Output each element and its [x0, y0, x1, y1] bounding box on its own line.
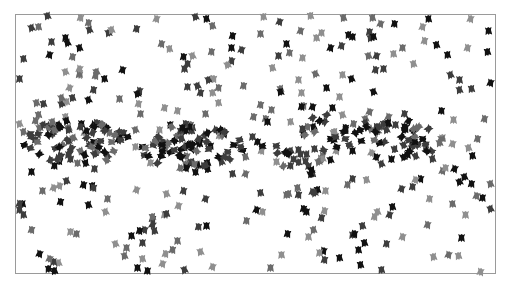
boid-icon: [298, 89, 305, 97]
boid-icon: [123, 133, 132, 142]
boid-icon: [107, 138, 115, 145]
boid-icon: [63, 38, 72, 48]
boid-icon: [202, 110, 209, 118]
boid-icon: [178, 123, 186, 131]
boid-icon: [161, 249, 169, 258]
boid-icon: [229, 170, 237, 179]
boid-icon: [28, 168, 35, 176]
boid-icon: [421, 36, 430, 45]
boid-icon: [389, 203, 397, 212]
boid-icon: [429, 253, 438, 262]
boid-icon: [131, 125, 140, 135]
boid-icon: [388, 154, 395, 162]
boid-icon: [259, 142, 268, 150]
boid-icon: [444, 250, 453, 260]
boid-icon: [444, 51, 452, 60]
boid-icon: [183, 82, 191, 91]
boid-icon: [90, 184, 98, 193]
boid-icon: [191, 12, 200, 22]
boid-icon: [446, 70, 455, 80]
boid-icon: [397, 185, 406, 195]
boid-icon: [208, 263, 217, 273]
boid-icon: [485, 204, 494, 214]
boid-icon: [69, 133, 78, 143]
boid-icon: [132, 24, 140, 33]
boid-icon: [241, 169, 250, 179]
boid-icon: [91, 165, 98, 173]
boid-icon: [347, 74, 356, 84]
boid-icon: [55, 181, 64, 191]
boid-icon: [116, 95, 123, 103]
boid-icon: [204, 145, 212, 152]
boid-icon: [357, 137, 366, 145]
boid-icon: [167, 121, 177, 131]
boid-icon: [80, 149, 90, 159]
boid-icon: [257, 100, 265, 109]
boid-icon: [450, 164, 459, 174]
boid-icon: [134, 99, 142, 108]
boid-icon: [34, 111, 42, 120]
boid-icon: [34, 149, 45, 159]
boid-icon: [215, 84, 223, 93]
boid-icon: [203, 222, 210, 230]
boid-icon: [423, 221, 432, 230]
boid-icon: [85, 200, 94, 209]
boid-icon: [174, 106, 182, 115]
boid-icon: [380, 65, 387, 73]
boid-icon: [418, 136, 426, 143]
boid-icon: [180, 266, 189, 276]
boid-icon: [326, 155, 335, 165]
boid-icon: [268, 64, 276, 73]
boid-icon: [310, 144, 318, 153]
boid-icon: [240, 82, 248, 91]
boid-icon: [47, 38, 54, 46]
boid-icon: [27, 24, 36, 34]
boid-icon: [362, 176, 370, 185]
boid-icon: [128, 231, 135, 239]
boid-icon: [179, 186, 188, 195]
boid-icon: [174, 237, 181, 245]
boid-icon: [283, 40, 290, 48]
boid-icon: [398, 44, 405, 52]
boid-icon: [442, 163, 450, 172]
boid-icon: [486, 78, 495, 88]
boid-icon: [296, 26, 305, 36]
boid-icon: [120, 251, 129, 260]
boid-icon: [437, 106, 445, 115]
boid-icon: [473, 134, 481, 143]
boid-icon: [467, 180, 475, 189]
boid-icon: [76, 14, 84, 23]
boid-icon: [391, 20, 399, 29]
boid-icon: [118, 65, 127, 74]
boid-icon: [294, 157, 302, 166]
boid-icon: [20, 55, 28, 64]
boid-icon: [39, 99, 47, 108]
boid-icon: [372, 65, 381, 74]
boid-icon: [456, 76, 463, 84]
boid-icon: [26, 143, 36, 152]
boid-icon: [104, 195, 111, 203]
boid-icon: [69, 53, 77, 62]
boid-icon: [84, 95, 93, 105]
boid-icon: [111, 240, 120, 250]
boid-icon: [382, 125, 391, 135]
boid-icon: [249, 133, 256, 141]
boid-icon: [174, 202, 183, 212]
boid-icon: [326, 43, 335, 52]
boid-icon: [158, 141, 166, 148]
boid-icon: [358, 222, 366, 231]
boid-icon: [455, 251, 463, 260]
boid-icon: [56, 197, 64, 206]
boid-icon: [190, 160, 198, 168]
boid-icon: [16, 75, 23, 83]
boid-icon: [259, 13, 267, 22]
boid-icon: [469, 152, 477, 161]
boid-icon: [60, 67, 69, 77]
boids-canvas: [0, 0, 508, 288]
boid-icon: [100, 75, 108, 84]
boid-icon: [345, 31, 353, 40]
boid-icon: [64, 125, 73, 134]
boid-icon: [62, 116, 71, 126]
boid-icon: [323, 84, 331, 92]
boid-icon: [278, 250, 285, 258]
